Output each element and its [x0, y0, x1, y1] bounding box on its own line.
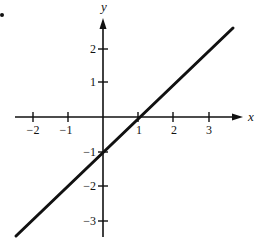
x-tick-label: 1 — [136, 123, 142, 137]
x-axis-label: x — [247, 109, 254, 124]
y-axis: y 2 1 −1 −2 −3 — [83, 0, 108, 237]
x-tick-label: 3 — [206, 123, 212, 137]
y-tick-label: 2 — [90, 42, 96, 56]
line-y-equals-x-minus-1 — [16, 28, 233, 236]
y-tick-label: −3 — [83, 214, 96, 228]
y-axis-label: y — [99, 0, 107, 14]
y-tick-label: −1 — [83, 145, 96, 159]
bullet-marker — [0, 13, 4, 17]
y-tick-label: −2 — [83, 179, 96, 193]
graph-canvas: x −2 −1 1 2 3 y 2 1 −1 −2 −3 — [0, 0, 259, 243]
x-axis-arrow-icon — [232, 114, 243, 121]
x-tick-label: −2 — [27, 123, 40, 137]
y-tick-label: 1 — [90, 75, 96, 89]
x-tick-label: −1 — [60, 123, 73, 137]
y-axis-arrow-icon — [100, 18, 107, 29]
x-tick-label: 2 — [171, 123, 177, 137]
